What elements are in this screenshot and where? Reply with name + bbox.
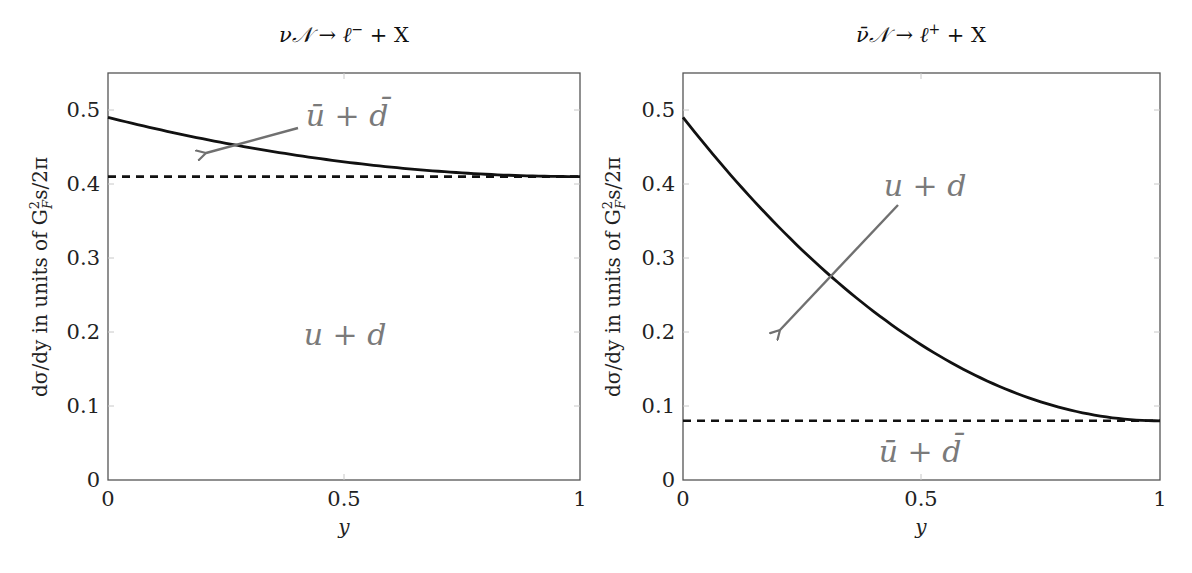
left-x-tick-labels: 0 0.5 1: [101, 487, 586, 511]
figure: ν𝒩 → ℓ− + X 0 0.1 0.2 0.3 0.4 0.5 0 0.5 …: [0, 0, 1192, 573]
svg-text:0: 0: [676, 487, 689, 511]
left-y-axis-title: dσ/dy in units of G2Fs/2π: [27, 157, 55, 397]
svg-text:0.4: 0.4: [67, 172, 100, 196]
left-annotation-sea-quarks: ū + d̄: [306, 96, 392, 133]
right-annotation-arrow: [780, 205, 898, 330]
svg-text:0: 0: [101, 487, 114, 511]
left-y-tick-labels: 0 0.1 0.2 0.3 0.4 0.5: [67, 98, 100, 492]
svg-text:0.2: 0.2: [642, 320, 675, 344]
svg-text:0.5: 0.5: [904, 487, 937, 511]
svg-text:0.3: 0.3: [67, 246, 100, 270]
svg-text:0: 0: [87, 468, 100, 492]
right-y-tick-marks: [683, 73, 1160, 480]
left-chart: ν𝒩 → ℓ− + X 0 0.1 0.2 0.3 0.4 0.5 0 0.5 …: [27, 21, 587, 539]
left-chart-title: ν𝒩 → ℓ− + X: [279, 21, 409, 47]
right-plot-frame: [683, 73, 1160, 480]
right-total-curve: [683, 117, 1160, 420]
right-annotation-sea-quarks: ū + d̄: [879, 432, 965, 469]
svg-text:0.1: 0.1: [642, 394, 675, 418]
right-y-tick-labels: 0 0.1 0.2 0.3 0.4 0.5: [642, 98, 675, 492]
right-x-axis-title: y: [914, 515, 927, 539]
right-chart: ν̄𝒩 → ℓ+ + X 0 0.1 0.2 0.3 0.4 0.5 0 0.5…: [600, 21, 1167, 539]
svg-text:0.5: 0.5: [642, 98, 675, 122]
svg-text:0.5: 0.5: [67, 98, 100, 122]
svg-text:0.4: 0.4: [642, 172, 675, 196]
right-y-axis-title: dσ/dy in units of G2Fs/2π: [600, 157, 628, 397]
svg-text:1: 1: [1153, 487, 1166, 511]
svg-text:0.3: 0.3: [642, 246, 675, 270]
svg-text:0.2: 0.2: [67, 320, 100, 344]
svg-text:0.5: 0.5: [327, 487, 360, 511]
left-annotation-valence-quarks: u + d: [304, 317, 387, 352]
svg-text:0: 0: [662, 468, 675, 492]
right-x-tick-labels: 0 0.5 1: [676, 487, 1166, 511]
svg-text:0.1: 0.1: [67, 394, 100, 418]
left-x-axis-title: y: [337, 515, 350, 539]
right-chart-title: ν̄𝒩 → ℓ+ + X: [856, 21, 986, 47]
svg-text:1: 1: [573, 487, 586, 511]
right-annotation-valence-quarks: u + d: [884, 168, 967, 203]
